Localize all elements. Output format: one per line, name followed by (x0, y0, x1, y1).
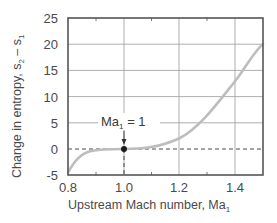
y-axis-ticks: -5 0 5 10 15 20 25 (44, 11, 58, 183)
svg-text:10: 10 (44, 90, 58, 105)
arrow-down-icon (122, 139, 127, 145)
svg-text:15: 15 (44, 63, 58, 78)
x-axis-label: Upstream Mach number, Ma1 (68, 198, 231, 214)
svg-text:1.0: 1.0 (115, 180, 133, 195)
svg-text:1.2: 1.2 (170, 180, 188, 195)
annotation-label: Ma1 = 1 (101, 114, 146, 131)
svg-text:25: 25 (44, 11, 58, 26)
svg-text:-5: -5 (46, 168, 58, 183)
svg-text:20: 20 (44, 37, 58, 52)
svg-text:0.8: 0.8 (59, 180, 77, 195)
sonic-point-marker (121, 146, 127, 152)
x-axis-ticks: 0.8 1.0 1.2 1.4 (59, 180, 244, 195)
svg-text:0: 0 (51, 142, 58, 157)
y-axis-label: Change in entropy, s2 – s1 (10, 34, 26, 178)
entropy-chart: Ma1 = 1 -5 0 5 10 15 20 25 0.8 1.0 1.2 1… (0, 0, 277, 223)
gridlines (68, 18, 263, 175)
entropy-curve (68, 44, 263, 172)
svg-text:1.4: 1.4 (226, 180, 244, 195)
svg-text:5: 5 (51, 116, 58, 131)
